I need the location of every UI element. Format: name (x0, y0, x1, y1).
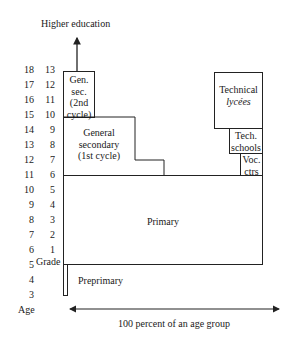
gen-sec-2nd-cycle-box: Gen. sec. (2nd cycle) (63, 71, 95, 118)
grade-tick: 5 (39, 184, 55, 196)
age-tick: 17 (18, 79, 34, 91)
grade-tick: 12 (39, 79, 55, 91)
age-tick: 7 (18, 229, 34, 241)
age-tick: 13 (18, 139, 34, 151)
primary-box: Primary (63, 175, 263, 265)
grade-tick: 8 (39, 139, 55, 151)
primary-label: Primary (64, 216, 262, 228)
grade-tick: 13 (39, 64, 55, 76)
age-tick: 4 (18, 274, 34, 286)
technical-lycees-box: Technical lycées (214, 72, 263, 129)
age-tick: 3 (18, 289, 34, 301)
gen-sec-2nd-cycle-label: Gen. sec. (2nd cycle) (64, 74, 94, 120)
age-tick: 18 (18, 64, 34, 76)
grade-tick: 11 (39, 94, 55, 106)
age-tick: 11 (18, 169, 34, 181)
grade-tick: 3 (39, 214, 55, 226)
higher-education-label: Higher education (41, 18, 110, 30)
voc-ctrs-box: Voc. ctrs (240, 153, 263, 176)
preprimary-box (63, 264, 68, 296)
general-secondary-1st-cycle-label: General secondary (1st cycle) (63, 127, 135, 162)
age-tick: 5 (18, 259, 34, 271)
age-tick: 6 (18, 244, 34, 256)
age-tick: 16 (18, 94, 34, 106)
age-tick: 10 (18, 184, 34, 196)
age-axis-label: Age (18, 304, 35, 316)
grade-tick: 2 (39, 229, 55, 241)
tech-schools-box: Tech. schools (229, 128, 263, 154)
age-tick: 15 (18, 109, 34, 121)
grade-tick: 6 (39, 169, 55, 181)
grade-tick: 9 (39, 124, 55, 136)
tech-schools-label: Tech. schools (230, 130, 262, 153)
grade-tick: 1 (39, 244, 55, 256)
percent-axis-label: 100 percent of an age group (118, 318, 230, 330)
general-secondary-left-edge (63, 117, 64, 175)
age-tick: 8 (18, 214, 34, 226)
age-tick: 12 (18, 154, 34, 166)
age-tick: 9 (18, 199, 34, 211)
voc-ctrs-label: Voc. ctrs (241, 154, 262, 177)
preprimary-label: Preprimary (78, 275, 123, 287)
grade-axis-label: Grade (36, 256, 60, 268)
grade-tick: 7 (39, 154, 55, 166)
grade-tick: 10 (39, 109, 55, 121)
technical-lycees-label: Technical lycées (215, 84, 262, 107)
grade-tick: 4 (39, 199, 55, 211)
age-tick: 14 (18, 124, 34, 136)
